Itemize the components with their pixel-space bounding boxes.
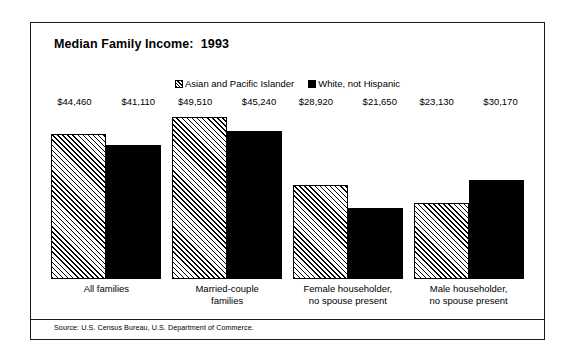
bar-value-label: $28,920 xyxy=(299,97,333,107)
bar-group-female-householder: $28,920 $21,650 xyxy=(293,109,403,279)
bar-value-label: $21,650 xyxy=(363,97,397,107)
bar-value-label: $41,110 xyxy=(121,97,155,107)
category-label-line: no spouse present xyxy=(288,295,408,307)
category-label-all-families: All families xyxy=(46,283,166,295)
bar-wrap: $23,130 xyxy=(414,109,469,279)
bar-value-label: $44,460 xyxy=(57,97,91,107)
legend-item-white-not-hispanic: White, not Hispanic xyxy=(308,79,400,89)
category-label-line: Male householder, xyxy=(409,283,529,295)
category-label-line: no spouse present xyxy=(409,295,529,307)
legend-item-label: Asian and Pacific Islander xyxy=(185,79,294,89)
category-label-line: families xyxy=(167,295,287,307)
bar-value-label: $49,510 xyxy=(178,97,212,107)
bar-value-label: $30,170 xyxy=(483,97,517,107)
legend-item-label: White, not Hispanic xyxy=(318,79,400,89)
chart-title: Median Family Income: 1993 xyxy=(54,37,229,51)
source-note: Source: U.S. Census Bureau, U.S. Departm… xyxy=(54,323,254,332)
bar-value-label: $23,130 xyxy=(420,97,454,107)
bar-wrap: $41,110 xyxy=(106,109,161,279)
bar-white-not-hispanic xyxy=(348,208,403,279)
category-label-line: Female householder, xyxy=(288,283,408,295)
legend-item-asian-pacific-islander: Asian and Pacific Islander xyxy=(175,79,294,89)
bar-asian-pacific-islander xyxy=(414,203,469,279)
bar-wrap: $45,240 xyxy=(227,109,282,279)
source-divider xyxy=(31,319,544,320)
bar-asian-pacific-islander xyxy=(51,134,106,279)
filled-square-icon xyxy=(308,80,316,88)
bar-wrap: $44,460 xyxy=(51,109,106,279)
category-label-line: Married-couple xyxy=(167,283,287,295)
chart-frame: Median Family Income: 1993 Asian and Pac… xyxy=(30,22,545,340)
category-label-married-couple-families: Married-couple families xyxy=(167,283,287,307)
bar-group-male-householder: $23,130 $30,170 xyxy=(414,109,524,279)
bar-group-all-families: $44,460 $41,110 xyxy=(51,109,161,279)
bar-white-not-hispanic xyxy=(227,131,282,279)
category-label-line: All families xyxy=(46,283,166,295)
hatched-square-icon xyxy=(175,80,183,88)
bar-groups: $44,460 $41,110 $49,510 $45,240 xyxy=(46,109,529,279)
bar-wrap: $28,920 xyxy=(293,109,348,279)
bar-group-married-couple-families: $49,510 $45,240 xyxy=(172,109,282,279)
bar-wrap: $21,650 xyxy=(348,109,403,279)
bar-asian-pacific-islander xyxy=(293,185,348,280)
bar-value-label: $45,240 xyxy=(242,97,276,107)
category-label-female-householder: Female householder, no spouse present xyxy=(288,283,408,307)
category-label-male-householder: Male householder, no spouse present xyxy=(409,283,529,307)
chart-legend: Asian and Pacific Islander White, not Hi… xyxy=(31,79,544,89)
bar-wrap: $30,170 xyxy=(469,109,524,279)
plot-area: $44,460 $41,110 $49,510 $45,240 xyxy=(46,109,529,279)
bar-asian-pacific-islander xyxy=(172,117,227,279)
bar-wrap: $49,510 xyxy=(172,109,227,279)
category-axis-labels: All families Married-couple families Fem… xyxy=(46,283,529,307)
bar-white-not-hispanic xyxy=(469,180,524,279)
bar-white-not-hispanic xyxy=(106,145,161,279)
